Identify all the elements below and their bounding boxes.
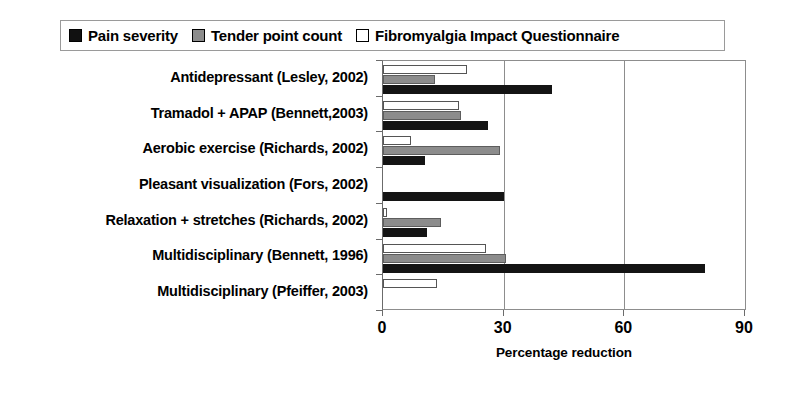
legend-item-pain-severity: Pain severity xyxy=(69,28,178,43)
bar-fibromyalgia-impact-questionnaire xyxy=(383,136,411,145)
bar-group xyxy=(383,204,745,240)
bar-fibromyalgia-impact-questionnaire xyxy=(383,279,437,288)
legend-item-tender-point-count: Tender point count xyxy=(192,28,342,43)
x-axis-tick-label: 0 xyxy=(378,320,387,336)
bar-tender-point-count xyxy=(383,146,500,155)
value-axis: 0306090 xyxy=(382,310,746,311)
bar-group xyxy=(383,240,745,276)
bar-pain-severity xyxy=(383,228,427,237)
x-axis-tick xyxy=(744,310,745,316)
x-axis-title: Percentage reduction xyxy=(382,345,746,360)
category-label: Tramadol + APAP (Bennett,2003) xyxy=(151,106,368,121)
legend-label: Pain severity xyxy=(88,28,178,43)
category-label: Pleasant visualization (Fors, 2002) xyxy=(139,177,368,192)
legend-item-fiq: Fibromyalgia Impact Questionnaire xyxy=(356,28,619,43)
plot-area xyxy=(382,60,746,310)
bar-pain-severity xyxy=(383,121,488,130)
bar-tender-point-count xyxy=(383,75,435,84)
x-axis-tick xyxy=(382,310,383,316)
bar-chart: Pain severity Tender point count Fibromy… xyxy=(0,0,787,397)
bar-group xyxy=(383,275,745,311)
chart-legend: Pain severity Tender point count Fibromy… xyxy=(60,20,725,51)
x-axis-tick-label: 30 xyxy=(494,320,512,336)
bar-pain-severity xyxy=(383,156,425,165)
bar-group xyxy=(383,132,745,168)
bar-tender-point-count xyxy=(383,218,441,227)
category-label: Aerobic exercise (Richards, 2002) xyxy=(142,141,368,156)
black-square-icon xyxy=(69,29,82,42)
bar-pain-severity xyxy=(383,192,504,201)
bar-fibromyalgia-impact-questionnaire xyxy=(383,244,486,253)
bar-group xyxy=(383,61,745,97)
bar-group xyxy=(383,97,745,133)
bar-fibromyalgia-impact-questionnaire xyxy=(383,208,387,217)
white-square-icon xyxy=(356,29,369,42)
bar-pain-severity xyxy=(383,264,705,273)
x-axis-tick-label: 60 xyxy=(614,320,632,336)
legend-label: Fibromyalgia Impact Questionnaire xyxy=(375,28,619,43)
category-label: Multidisciplinary (Pfeiffer, 2003) xyxy=(157,284,368,299)
legend-label: Tender point count xyxy=(211,28,342,43)
category-axis: Antidepressant (Lesley, 2002)Tramadol + … xyxy=(0,60,376,310)
x-axis-tick-label: 90 xyxy=(735,320,753,336)
bar-fibromyalgia-impact-questionnaire xyxy=(383,65,467,74)
bar-tender-point-count xyxy=(383,254,506,263)
bar-tender-point-count xyxy=(383,111,461,120)
category-label: Antidepressant (Lesley, 2002) xyxy=(170,70,368,85)
bar-fibromyalgia-impact-questionnaire xyxy=(383,101,459,110)
bar-pain-severity xyxy=(383,85,552,94)
x-axis-tick xyxy=(503,310,504,316)
category-label: Multidisciplinary (Bennett, 1996) xyxy=(152,248,368,263)
gray-square-icon xyxy=(192,29,205,42)
bar-group xyxy=(383,168,745,204)
category-label: Relaxation + stretches (Richards, 2002) xyxy=(105,213,368,228)
x-axis-tick xyxy=(623,310,624,316)
